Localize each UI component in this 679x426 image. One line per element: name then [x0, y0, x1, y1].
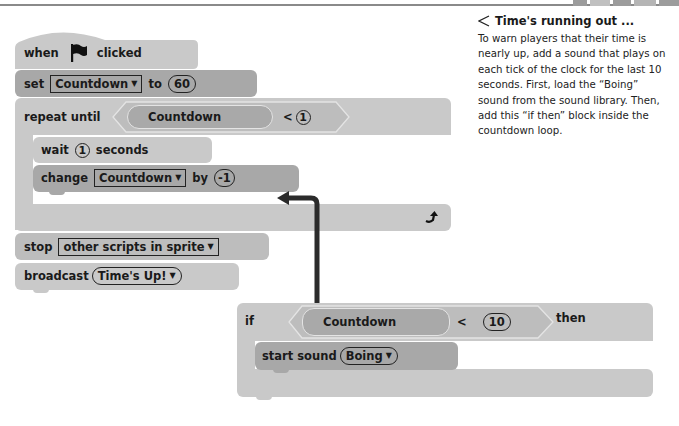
change-block-notch — [49, 191, 65, 195]
if-then-bottom-arm — [237, 369, 653, 397]
change-variable-dropdown[interactable]: Countdown▼ — [94, 169, 186, 187]
chevron-down-icon: ▼ — [386, 348, 392, 364]
set-variable-row: set Countdown▼ to 60 — [24, 74, 202, 94]
if-condition-variable-label: Countdown — [323, 315, 396, 329]
change-variable-name: Countdown — [99, 170, 172, 186]
repeat-condition-operator: < — [283, 110, 293, 124]
stop-row: stop other scripts in sprite▼ — [24, 237, 225, 257]
broadcast-label: broadcast — [24, 269, 89, 283]
chevron-down-icon: ▼ — [169, 268, 175, 284]
callout-body: To warn players that their time is nearl… — [478, 31, 668, 139]
set-variable-name: Countdown — [55, 76, 128, 92]
chevron-down-icon: ▼ — [131, 76, 137, 92]
stop-option-value: other scripts in sprite — [63, 239, 204, 255]
set-value-input[interactable]: 60 — [168, 75, 196, 93]
repeat-condition-variable[interactable]: Countdown — [127, 105, 273, 129]
stop-label: stop — [24, 240, 52, 254]
callout: Time's running out ... To warn players t… — [478, 14, 668, 139]
stop-option-dropdown[interactable]: other scripts in sprite▼ — [58, 238, 218, 256]
if-condition-operator-row: < 10 — [457, 312, 517, 332]
if-then-label-row: then — [556, 308, 592, 328]
start-sound-row: start sound Boing▼ — [262, 346, 404, 366]
insert-here-arrow-icon — [270, 190, 330, 308]
wait-row: wait 1 seconds — [41, 140, 154, 160]
repeat-until-label-row: repeat until — [24, 107, 107, 127]
if-then-bottom-notch — [256, 396, 272, 400]
repeat-condition-operator-row: < 1 — [283, 107, 317, 127]
if-label: if — [245, 314, 254, 328]
if-condition-value-input[interactable]: 10 — [483, 313, 511, 331]
green-flag-icon — [71, 44, 87, 62]
hat-when-label: when — [24, 46, 59, 60]
change-by-label: by — [192, 171, 208, 185]
sound-dropdown[interactable]: Boing▼ — [340, 347, 398, 365]
if-label-row: if — [245, 311, 260, 331]
when-flag-clicked-block[interactable]: when clicked — [24, 43, 148, 63]
chevron-down-icon: ▼ — [175, 170, 181, 186]
loop-arrow-icon — [424, 209, 440, 225]
set-label: set — [24, 77, 44, 91]
top-decoration — [559, 0, 679, 6]
then-label: then — [556, 311, 586, 325]
if-condition-variable[interactable]: Countdown — [302, 308, 450, 336]
repeat-condition-value-input[interactable]: 1 — [296, 110, 311, 125]
repeat-until-label: repeat until — [24, 110, 101, 124]
repeat-until-bottom-arm — [15, 204, 451, 231]
set-to-label: to — [148, 77, 161, 91]
start-sound-block-notch — [273, 369, 289, 373]
change-row: change Countdown▼ by -1 — [41, 168, 241, 188]
sound-value: Boing — [346, 348, 383, 364]
broadcast-block-notch — [33, 289, 49, 293]
broadcast-message-dropdown[interactable]: Time's Up!▼ — [92, 267, 182, 285]
broadcast-row: broadcast Time's Up!▼ — [24, 266, 188, 286]
start-sound-label: start sound — [262, 349, 337, 363]
broadcast-message-value: Time's Up! — [98, 268, 167, 284]
wait-seconds-input[interactable]: 1 — [75, 143, 90, 158]
repeat-condition-variable-label: Countdown — [148, 110, 221, 124]
callout-title-row: Time's running out ... — [478, 14, 668, 28]
callout-title: Time's running out ... — [495, 14, 634, 28]
wait-seconds-label: seconds — [96, 143, 149, 157]
hat-clicked-label: clicked — [97, 46, 142, 60]
if-condition-operator: < — [457, 315, 467, 329]
triangle-left-icon — [478, 15, 490, 27]
change-label: change — [41, 171, 88, 185]
change-value-input[interactable]: -1 — [214, 169, 235, 187]
set-variable-dropdown[interactable]: Countdown▼ — [50, 75, 142, 93]
chevron-down-icon: ▼ — [208, 239, 214, 255]
wait-label: wait — [41, 143, 69, 157]
